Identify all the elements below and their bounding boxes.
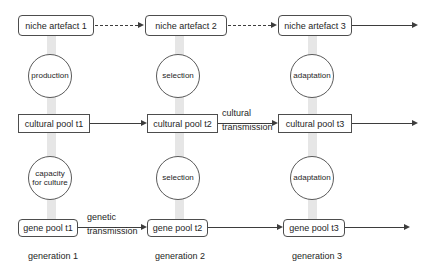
dashed-arrow-niche-2-3 <box>228 25 271 26</box>
niche-artefact-1-label: niche artefact 1 <box>25 21 87 31</box>
niche-artefact-2-box: niche artefact 2 <box>145 15 227 36</box>
gene-pool-t2-box: gene pool t2 <box>147 219 208 237</box>
arrowhead-icon <box>412 120 418 126</box>
niche-artefact-1-box: niche artefact 1 <box>18 15 94 36</box>
gene-pool-t3-label: gene pool t3 <box>289 223 339 233</box>
niche-construction-diagram: niche artefact 1 niche artefact 2 niche … <box>0 0 433 278</box>
arrow-niche-out <box>352 25 412 26</box>
cultural-pool-t2-box: cultural pool t2 <box>147 114 218 133</box>
generation-3-label: generation 3 <box>292 251 342 261</box>
production-label: production <box>31 71 68 81</box>
cultural-pool-t1-box: cultural pool t1 <box>18 114 90 133</box>
generation-2-label: generation 2 <box>155 251 205 261</box>
arrowhead-icon <box>138 22 144 28</box>
selection-lower-circle: selection <box>156 156 200 200</box>
selection-upper-label: selection <box>162 71 194 81</box>
capacity-for-culture-line1: capacity <box>35 169 64 179</box>
arrow-cultural-out <box>352 123 412 124</box>
gene-pool-t1-label: gene pool t1 <box>23 223 73 233</box>
cultural-pool-t2-label: cultural pool t2 <box>153 119 212 129</box>
gene-pool-t3-box: gene pool t3 <box>283 219 345 237</box>
capacity-for-culture-line2: for culture <box>32 178 68 188</box>
gene-pool-t2-label: gene pool t2 <box>153 223 203 233</box>
cultural-pool-t1-label: cultural pool t1 <box>25 119 84 129</box>
niche-artefact-2-label: niche artefact 2 <box>155 21 217 31</box>
niche-artefact-3-box: niche artefact 3 <box>278 15 352 36</box>
cultural-transmission-label-line2: transmission <box>222 122 273 133</box>
genetic-transmission-label-line2: transmission <box>87 226 138 237</box>
adaptation-lower-label: adaptation <box>293 173 330 183</box>
genetic-transmission-label-line1: genetic <box>87 212 116 223</box>
cultural-transmission-label-line1: cultural <box>222 108 251 119</box>
production-circle: production <box>28 54 72 98</box>
selection-upper-circle: selection <box>156 54 200 98</box>
niche-artefact-3-label: niche artefact 3 <box>284 21 346 31</box>
arrow-cultural-1-2 <box>90 123 141 124</box>
arrow-gene-out <box>345 227 404 228</box>
cultural-pool-t3-label: cultural pool t3 <box>286 119 345 129</box>
gene-pool-t1-box: gene pool t1 <box>18 219 78 237</box>
arrowhead-icon <box>404 224 410 230</box>
arrowhead-icon <box>271 22 277 28</box>
selection-lower-label: selection <box>162 173 194 183</box>
capacity-for-culture-circle: capacity for culture <box>28 156 72 200</box>
generation-1-label: generation 1 <box>28 251 78 261</box>
cultural-pool-t3-box: cultural pool t3 <box>278 114 352 133</box>
adaptation-upper-label: adaptation <box>293 71 330 81</box>
adaptation-lower-circle: adaptation <box>290 156 334 200</box>
dashed-arrow-niche-1-2 <box>95 25 138 26</box>
arrowhead-icon <box>412 22 418 28</box>
arrow-gene-2-3 <box>208 227 277 228</box>
adaptation-upper-circle: adaptation <box>290 54 334 98</box>
